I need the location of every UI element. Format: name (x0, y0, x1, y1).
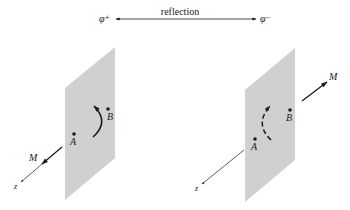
point-b-label: B (107, 111, 113, 122)
plane (65, 47, 115, 200)
reflection-relation: φ⁺ reflection φ⁻ (99, 6, 271, 24)
z-axis (21, 164, 42, 182)
moment-label: M (328, 71, 338, 82)
moment-arrow (42, 147, 62, 164)
point-a-label: A (250, 141, 258, 152)
reflection-diagram: φ⁺ reflection φ⁻ A B M z z A B M (0, 0, 350, 210)
point-b-label: B (286, 112, 292, 123)
moment-label: M (28, 152, 38, 163)
moment-arrow (302, 82, 327, 101)
plane (245, 48, 295, 202)
z-axis-label: z (13, 182, 18, 191)
phi-plus-label: φ⁺ (99, 13, 110, 24)
right-panel: z A B M (194, 48, 338, 202)
z-axis (202, 150, 244, 184)
z-axis-label: z (194, 184, 199, 193)
point-a-label: A (69, 136, 77, 147)
phi-minus-label: φ⁻ (260, 13, 271, 24)
left-panel: A B M z (13, 47, 115, 200)
reflection-label: reflection (161, 6, 199, 17)
